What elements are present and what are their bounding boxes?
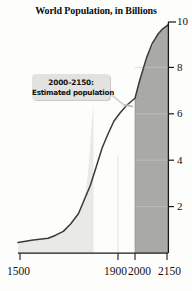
area-estimated-fill	[135, 25, 168, 253]
y-tick-label-4: 4	[177, 154, 183, 166]
y-tick-label-10: 10	[177, 15, 188, 27]
area-historical-fill	[18, 105, 94, 253]
x-tick-label-2000: 2000	[128, 265, 151, 277]
y-tick-label-6: 6	[177, 107, 183, 119]
x-tick-label-1900: 1900	[104, 265, 127, 277]
x-tick-label-2150: 2150	[158, 265, 181, 277]
chart-figure: World Population, in Billions	[0, 0, 192, 291]
y-tick-label-2: 2	[177, 200, 183, 212]
population-area-chart	[0, 0, 192, 291]
callout-description: Estimated population	[32, 88, 110, 97]
y-tick-label-8: 8	[177, 61, 183, 73]
x-axis-ticks	[20, 253, 167, 260]
y-axis-ticks	[168, 22, 176, 207]
estimate-callout: 2000–2150: Estimated population	[32, 74, 110, 100]
callout-date-range: 2000–2150:	[32, 78, 110, 87]
x-tick-label-1500: 1500	[7, 265, 30, 277]
